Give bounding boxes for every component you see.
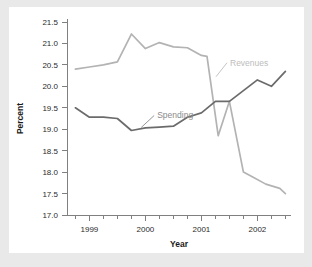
y-tick-label: 19.5 bbox=[42, 104, 58, 113]
y-tick-label: 17.0 bbox=[42, 211, 58, 220]
series-label-spending: Spending bbox=[157, 110, 193, 120]
y-tick-label: 21.5 bbox=[42, 18, 58, 27]
y-tick-label: 18.5 bbox=[42, 147, 58, 156]
y-tick-label: 18.0 bbox=[42, 168, 58, 177]
chart-card: 21.521.020.520.019.519.018.518.017.517.0… bbox=[9, 7, 304, 253]
series-label-revenues: Revenues bbox=[230, 58, 268, 68]
y-axis-title: Percent bbox=[15, 103, 25, 134]
x-tick-label: 1999 bbox=[81, 225, 99, 234]
x-axis-title: Year bbox=[170, 239, 189, 249]
series-annotations: RevenuesSpending bbox=[141, 58, 268, 128]
y-tick-label: 21.0 bbox=[42, 39, 58, 48]
y-tick-label: 17.5 bbox=[42, 190, 58, 199]
x-tick-label: 2002 bbox=[249, 225, 267, 234]
y-tick-label: 19.0 bbox=[42, 125, 58, 134]
line-chart: 21.521.020.520.019.519.018.518.017.517.0… bbox=[9, 7, 304, 253]
y-axis-ticks: 21.521.020.520.019.519.018.518.017.517.0 bbox=[42, 18, 67, 220]
series-line-spending bbox=[75, 71, 285, 130]
y-tick-label: 20.5 bbox=[42, 61, 58, 70]
leader-revenues bbox=[216, 63, 227, 77]
x-tick-label: 2000 bbox=[137, 225, 155, 234]
chart-page: 21.521.020.520.019.519.018.518.017.517.0… bbox=[0, 0, 312, 267]
x-axis-ticks: 1999200020012002 bbox=[75, 215, 285, 234]
y-tick-label: 20.0 bbox=[42, 82, 58, 91]
x-tick-label: 2001 bbox=[193, 225, 211, 234]
leader-spending bbox=[141, 115, 154, 127]
